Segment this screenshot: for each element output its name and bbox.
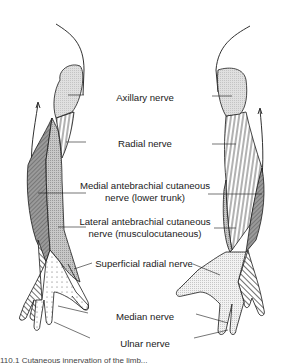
label-medial-antebrachial-line1: Medial antebrachial cutaneous (72, 180, 218, 191)
label-median-nerve: Median nerve (105, 311, 185, 322)
label-medial-antebrachial-line2: nerve (lower trunk) (72, 192, 218, 203)
left-arm-anterior (19, 24, 88, 330)
label-lateral-antebrachial-line2: nerve (musculocutaneous) (72, 228, 218, 239)
label-superficial-radial-nerve: Superficial radial nerve (92, 258, 196, 269)
label-axillary-nerve: Axillary nerve (105, 92, 185, 103)
figure-caption: 110.1 Cutaneous innervation of the limb.… (0, 356, 148, 364)
label-ulnar-nerve: Ulnar nerve (105, 338, 185, 349)
label-radial-nerve: Radial nerve (105, 138, 185, 149)
label-lateral-antebrachial-line1: Lateral antebrachial cutaneous (72, 216, 218, 227)
